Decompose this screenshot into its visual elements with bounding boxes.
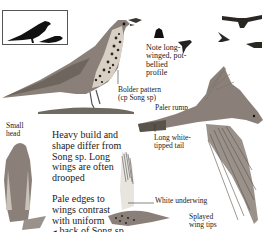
splayed-wing-tips-label: Splayed wing tips bbox=[189, 213, 217, 229]
white-underwing-leader-line bbox=[128, 201, 158, 205]
flying-thrush-underside-illustration bbox=[108, 150, 198, 232]
bolder-pattern-leader-line bbox=[116, 70, 120, 86]
perched-thrush-illustration bbox=[0, 8, 135, 118]
white-underwing-label: White underwing bbox=[155, 197, 207, 205]
pointer-left-icon: ◀ bbox=[52, 229, 57, 232]
small-head-label: Small head bbox=[6, 122, 24, 138]
thrush-back-view-illustration bbox=[0, 140, 50, 232]
long-tail-label: Long white- tipped tail bbox=[154, 134, 191, 150]
